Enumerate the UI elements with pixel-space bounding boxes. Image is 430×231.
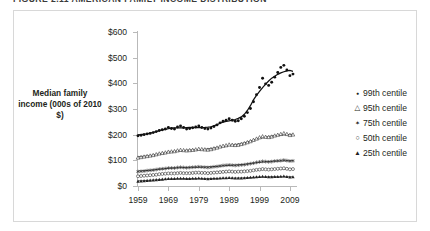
x-tick-label: 1999 [250, 195, 269, 205]
filled-triangle-icon [352, 149, 363, 157]
open-triangle-icon [352, 104, 363, 112]
series-layer [138, 32, 296, 186]
x-tick-label: 1989 [220, 195, 239, 205]
series-95th-centile [136, 131, 295, 159]
y-tick-label: $0 [117, 181, 127, 191]
y-tick-label: $100 [108, 155, 127, 165]
x-tick-label: 1969 [159, 195, 178, 205]
legend-label: 95th centile [363, 103, 407, 113]
x-tick [168, 186, 169, 191]
legend-item-75th[interactable]: 75th centile [352, 115, 424, 130]
legend-label: 50th centile [363, 133, 407, 143]
y-tick-label: $600 [108, 27, 127, 37]
x-tick [290, 186, 291, 191]
figure-title: FIGURE 2.11 AMERICAN FAMILY INCOME DISTR… [13, 0, 413, 5]
open-circle-icon [352, 134, 363, 142]
star-icon [352, 119, 363, 127]
x-tick-label: 1979 [189, 195, 208, 205]
legend-item-50th[interactable]: 50th centile [352, 131, 424, 146]
figure-container: FIGURE 2.11 AMERICAN FAMILY INCOME DISTR… [0, 0, 430, 231]
x-tick [229, 186, 230, 191]
series-75th-centile [136, 158, 294, 173]
x-axis-line [137, 186, 297, 187]
x-tick-label: 2009 [280, 195, 299, 205]
plot-area [138, 32, 296, 186]
legend-label: 25th centile [363, 148, 407, 158]
x-tick [199, 186, 200, 191]
legend-label: 75th centile [363, 118, 407, 128]
chart-legend: 99th centile95th centile75th centile50th… [352, 85, 424, 161]
y-tick-label: $300 [108, 104, 127, 114]
filled-circle-icon [352, 89, 363, 97]
legend-item-99th[interactable]: 99th centile [352, 85, 424, 100]
x-tick [138, 186, 139, 191]
x-tick [260, 186, 261, 191]
legend-item-25th[interactable]: 25th centile [352, 146, 424, 161]
y-tick-label: $500 [108, 53, 127, 63]
y-tick-label: $200 [108, 130, 127, 140]
legend-item-95th[interactable]: 95th centile [352, 100, 424, 115]
series-99th-centile [137, 64, 295, 137]
y-tick-label: $400 [108, 78, 127, 88]
legend-label: 99th centile [363, 88, 407, 98]
y-axis-title: Median family income (000s of 2010 $) [18, 88, 102, 121]
trend-line [138, 71, 293, 135]
x-tick-label: 1959 [128, 195, 147, 205]
